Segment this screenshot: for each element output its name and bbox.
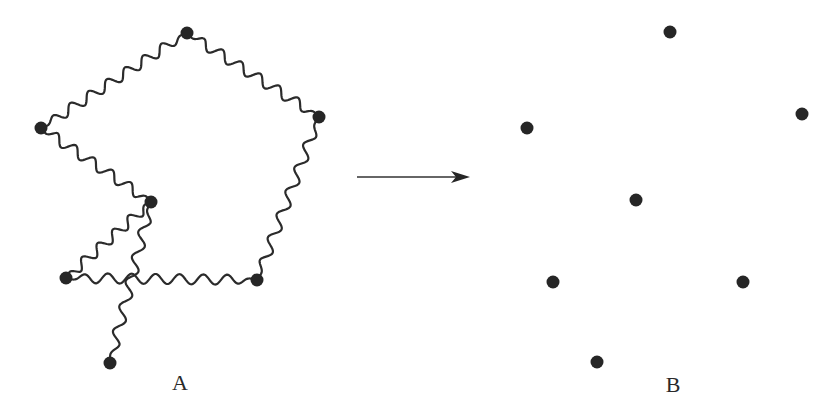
panel-a-node-a3 bbox=[35, 122, 48, 135]
panel-b-nodes bbox=[521, 26, 809, 369]
panel-b-node-b5 bbox=[547, 276, 560, 289]
transform-arrow bbox=[357, 171, 470, 183]
spring-a1-a2 bbox=[187, 33, 319, 117]
panel-b-node-b7 bbox=[591, 356, 604, 369]
panel-b-node-b6 bbox=[737, 276, 750, 289]
panel-a-node-a2 bbox=[313, 111, 326, 124]
panel-b-node-b1 bbox=[664, 26, 677, 39]
panel-a-label: A bbox=[172, 372, 188, 394]
panel-a-node-a1 bbox=[181, 27, 194, 40]
panel-b-node-b4 bbox=[630, 194, 643, 207]
panel-b-node-b2 bbox=[796, 108, 809, 121]
spring-a3-a4 bbox=[41, 128, 151, 202]
panel-a-node-a7 bbox=[104, 357, 117, 370]
panel-b-label: B bbox=[666, 374, 681, 396]
spring-a3-a1 bbox=[41, 33, 187, 128]
spring-a2-a6 bbox=[257, 117, 319, 280]
diagram-canvas: A B bbox=[0, 0, 835, 419]
panel-a-node-a6 bbox=[251, 274, 264, 287]
panel-a-node-a5 bbox=[60, 272, 73, 285]
panel-a-nodes bbox=[35, 27, 326, 370]
diagram-svg bbox=[0, 0, 835, 419]
panel-a-springs bbox=[41, 33, 319, 363]
spring-a6-a5 bbox=[66, 273, 257, 284]
panel-b-node-b3 bbox=[521, 122, 534, 135]
panel-a-node-a4 bbox=[145, 196, 158, 209]
